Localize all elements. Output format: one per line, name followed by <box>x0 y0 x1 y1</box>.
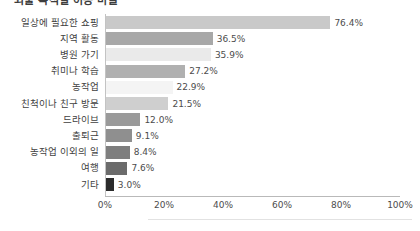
x-axis-tick-label: 0% <box>98 200 112 210</box>
bar-segment <box>105 97 168 110</box>
bar-segment <box>105 81 173 94</box>
bar-row: 취미나 학습 27.2% <box>0 65 420 78</box>
bar-value-label: 21.5% <box>172 99 201 108</box>
bar-value-label: 36.5% <box>217 34 246 43</box>
bar-value-label: 3.0% <box>118 180 141 189</box>
bar-row: 일상에 필요한 쇼핑 76.4% <box>0 16 420 29</box>
bar-segment <box>105 178 114 191</box>
category-label: 친척이나 친구 방문 <box>21 99 99 109</box>
plot-area: 일상에 필요한 쇼핑 76.4% 지역 활동 36.5% 병원 가기 35.9%… <box>0 14 420 196</box>
bar-row: 농작업 22.9% <box>0 81 420 94</box>
category-label: 농작업 <box>72 83 99 93</box>
category-label: 출퇴근 <box>72 131 99 141</box>
category-label: 드라이브 <box>63 115 99 125</box>
bar-value-label: 76.4% <box>334 18 363 27</box>
category-label: 병원 가기 <box>60 50 99 60</box>
bar-row: 여행 7.6% <box>0 162 420 175</box>
bar-row: 드라이브 12.0% <box>0 113 420 126</box>
y-axis-line <box>105 14 106 196</box>
category-label: 취미나 학습 <box>51 66 99 76</box>
bar-row: 지역 활동 36.5% <box>0 32 420 45</box>
bar-row: 농작업 이외의 일 8.4% <box>0 146 420 159</box>
bar-value-label: 27.2% <box>189 67 218 76</box>
x-axis-tick-label: 20% <box>154 200 174 210</box>
bar-segment <box>105 48 211 61</box>
bar-segment <box>105 146 130 159</box>
bar-segment <box>105 65 185 78</box>
category-label: 지역 활동 <box>60 34 99 44</box>
category-label: 여행 <box>81 164 99 174</box>
chart-title: 외출 목적별 이동 비율 <box>14 0 118 7</box>
bar-value-label: 7.6% <box>131 164 154 173</box>
bar-value-label: 35.9% <box>215 50 244 59</box>
x-axis-tick-label: 80% <box>331 200 351 210</box>
bar-row: 친척이나 친구 방문 21.5% <box>0 97 420 110</box>
bar-segment <box>105 113 140 126</box>
bar-segment <box>105 162 127 175</box>
bar-segment <box>105 16 330 29</box>
bar-row: 병원 가기 35.9% <box>0 48 420 61</box>
bar-row: 기타 3.0% <box>0 178 420 191</box>
bar-value-label: 12.0% <box>144 115 173 124</box>
bar-segment <box>105 129 132 142</box>
bar-value-label: 9.1% <box>136 131 159 140</box>
category-label: 일상에 필요한 쇼핑 <box>21 18 99 28</box>
footer-divider <box>148 219 412 220</box>
x-axis-tick-label: 60% <box>272 200 292 210</box>
x-axis-line <box>105 196 400 197</box>
x-axis-tick-label: 100% <box>387 200 413 210</box>
bar-segment <box>105 32 213 45</box>
bar-value-label: 8.4% <box>134 148 157 157</box>
category-label: 기타 <box>81 180 99 190</box>
bar-chart: 외출 목적별 이동 비율 일상에 필요한 쇼핑 76.4% 지역 활동 36.5… <box>0 0 420 231</box>
category-label: 농작업 이외의 일 <box>30 147 99 157</box>
x-axis-tick-label: 40% <box>213 200 233 210</box>
bar-value-label: 22.9% <box>177 83 206 92</box>
bar-row: 출퇴근 9.1% <box>0 129 420 142</box>
